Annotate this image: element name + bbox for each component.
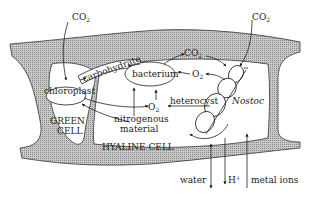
bacterium-label: bacterium: [132, 69, 179, 79]
diagram-canvas: CO2 CO2 CO2 O2 O2 carbohydrate bacterium…: [0, 0, 310, 198]
diagram-svg: CO2 CO2 CO2 O2 O2 carbohydrate bacterium…: [0, 0, 310, 198]
green-cell-label-2: CELL: [57, 126, 82, 136]
nostoc-label: Nostoc: [231, 96, 264, 106]
nitrogenous-label-2: material: [120, 124, 158, 134]
green-cell-label-1: GREEN: [50, 116, 85, 126]
o2-upper-label: O2: [192, 69, 203, 80]
h-plus-label: H+: [228, 174, 241, 185]
o2-lower-label: O2: [148, 102, 159, 113]
water-label: water: [180, 175, 207, 185]
hyaline-cell-label: HYALINE CELL: [102, 142, 174, 152]
nitrogenous-label-1: nitrogenous: [114, 114, 169, 124]
co2-top-left-label: CO2: [72, 12, 90, 23]
chloroplast-label: chloroplast: [44, 86, 95, 96]
heterocyst-label: heterocyst: [170, 96, 219, 106]
metal-ions-label: metal ions: [251, 175, 299, 185]
co2-top-right-label: CO2: [252, 12, 270, 23]
